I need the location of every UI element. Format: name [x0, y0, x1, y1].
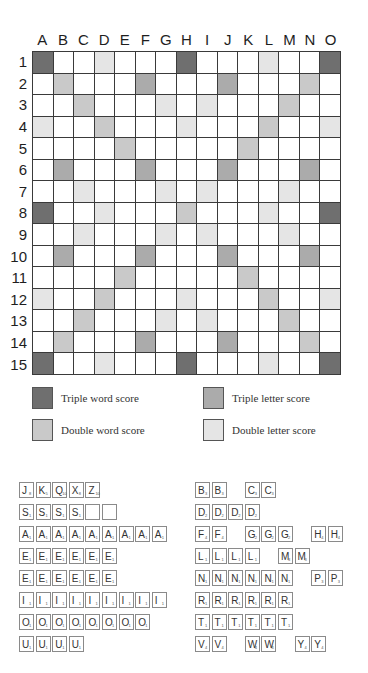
triple-word-cell [320, 353, 340, 374]
tile-value: 1 [79, 513, 81, 518]
board-cell [259, 310, 279, 331]
tile-value: 3 [271, 491, 273, 496]
tile-letter: L [248, 550, 254, 563]
double-letter-cell [259, 52, 279, 73]
board-cell [177, 224, 197, 245]
board-cell [156, 332, 176, 353]
letter-tile: G2 [261, 526, 276, 542]
letter-tile: M3 [278, 548, 293, 564]
double-letter-cell [197, 95, 217, 116]
letter-tile: U1 [69, 636, 84, 652]
tile-value: 1 [62, 623, 64, 628]
letter-tile: M3 [295, 548, 310, 564]
double-letter-cell [156, 310, 176, 331]
board-cell [33, 160, 53, 181]
board-cell [115, 289, 135, 310]
column-label: H [176, 30, 197, 50]
tile-value: 1 [29, 579, 31, 584]
board-cell [156, 160, 176, 181]
letter-tile: V4 [195, 636, 210, 652]
tile-letter: Z [88, 484, 94, 497]
board-cell [177, 95, 197, 116]
double-letter-cell [259, 203, 279, 224]
tile-value: 1 [238, 623, 240, 628]
board-cell [238, 353, 258, 374]
letter-tile: E1 [19, 548, 34, 564]
tile-value: 1 [271, 579, 273, 584]
letter-tile: R1 [212, 592, 227, 608]
tile-value: 2 [288, 535, 290, 540]
double-word-swatch [32, 419, 53, 441]
tile-letter: L [215, 550, 221, 563]
board-cell [95, 310, 115, 331]
tile-value: 1 [238, 579, 240, 584]
tile-letter: S [22, 506, 29, 519]
board-cell [33, 246, 53, 267]
tile-value: 4 [305, 645, 307, 650]
column-label: B [53, 30, 74, 50]
board-cell [156, 267, 176, 288]
board-cell [279, 74, 299, 95]
row-label: 9 [8, 224, 30, 246]
letter-tile: H4 [328, 526, 343, 542]
triple-letter-cell [218, 246, 238, 267]
column-label: C [73, 30, 94, 50]
triple-word-cell [177, 52, 197, 73]
board-cell [136, 52, 156, 73]
letter-tile: N1 [278, 570, 293, 586]
board-cell [218, 138, 238, 159]
letter-tile: O1 [52, 614, 67, 630]
double-letter-cell [177, 117, 197, 138]
letter-tile: H4 [311, 526, 326, 542]
board-cell [115, 52, 135, 73]
letter-tile: N1 [245, 570, 260, 586]
tile-value: 1 [112, 601, 114, 606]
letter-tile: U1 [52, 636, 67, 652]
tile-value: 1 [29, 535, 31, 540]
board-cell [95, 224, 115, 245]
letter-tile: A1 [135, 526, 150, 542]
letter-tile: R1 [195, 592, 210, 608]
board-cell [74, 74, 94, 95]
tile-value: 1 [205, 623, 207, 628]
double-word-cell [74, 310, 94, 331]
board-cell [300, 117, 320, 138]
letter-tile: R1 [278, 592, 293, 608]
tile-letter: T [215, 616, 221, 629]
triple-word-cell [320, 203, 340, 224]
board-cell [74, 246, 94, 267]
board-cell [177, 74, 197, 95]
board-cell [279, 289, 299, 310]
letter-tile: R1 [261, 592, 276, 608]
blank-tile [85, 504, 100, 520]
tile-value: 2 [271, 535, 273, 540]
letter-tile: Y4 [311, 636, 326, 652]
tile-letter: E [39, 572, 46, 585]
blank-tile [102, 504, 117, 520]
board-cell [300, 310, 320, 331]
board-cell [115, 74, 135, 95]
board-cell [54, 224, 74, 245]
board-cell [136, 289, 156, 310]
letter-tile: K5 [36, 482, 51, 498]
tile-value: 3 [321, 579, 323, 584]
letter-tile: C3 [245, 482, 260, 498]
column-label: M [279, 30, 300, 50]
tile-value: 1 [145, 601, 147, 606]
tile-value: 1 [62, 645, 64, 650]
letter-tile: J8 [19, 482, 34, 498]
tile-value: 4 [338, 535, 340, 540]
board-cell [156, 52, 176, 73]
letter-tile: R1 [245, 592, 260, 608]
board-cell [238, 332, 258, 353]
tile-value: 1 [112, 579, 114, 584]
board-cell [320, 74, 340, 95]
tile-value: 1 [29, 623, 31, 628]
letter-tile: T1 [245, 614, 260, 630]
triple-letter-cell [218, 74, 238, 95]
column-label: I [197, 30, 218, 50]
triple-letter-cell [136, 74, 156, 95]
board-cell [136, 267, 156, 288]
double-word-cell [54, 332, 74, 353]
letter-tile: A1 [152, 526, 167, 542]
